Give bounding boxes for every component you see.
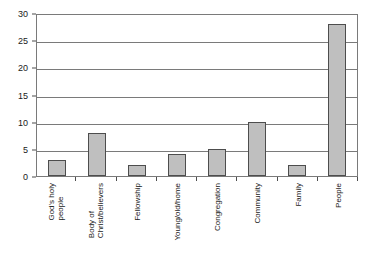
y-tick-label: 5 <box>23 145 28 154</box>
bar-slot <box>77 15 117 176</box>
x-axis-ticks <box>36 177 358 182</box>
bars-container <box>37 15 357 176</box>
bar-slot <box>37 15 77 176</box>
y-axis: 051015202530 <box>0 0 36 259</box>
bar[interactable] <box>48 160 66 176</box>
x-tick-mark <box>357 177 358 181</box>
bar[interactable] <box>128 165 146 176</box>
y-tick-label: 20 <box>18 64 28 73</box>
bar-chart: 051015202530 God's holy peopleBody of Ch… <box>0 0 373 259</box>
bar[interactable] <box>208 149 226 176</box>
bar[interactable] <box>328 24 346 176</box>
x-label-cell: People <box>318 183 358 259</box>
y-tick-label: 15 <box>18 91 28 100</box>
x-tick-cell <box>278 177 318 182</box>
x-axis-label: Fellowship <box>132 183 141 221</box>
x-tick-cell <box>117 177 157 182</box>
x-axis-label: Family <box>293 183 302 207</box>
plot-area <box>36 14 358 177</box>
bar[interactable] <box>88 133 106 176</box>
x-tick-cell <box>76 177 116 182</box>
x-label-cell: Young/old/home <box>157 183 197 259</box>
x-tick-cell <box>157 177 197 182</box>
x-axis-label: Congregation <box>213 183 222 231</box>
x-tick-cell <box>318 177 358 182</box>
x-label-cell: Community <box>237 183 277 259</box>
x-axis-labels: God's holy peopleBody of Christ/believer… <box>36 183 358 259</box>
x-label-cell: Body of Christ/believers <box>76 183 116 259</box>
bar-slot <box>197 15 237 176</box>
bar-slot <box>237 15 277 176</box>
x-axis-label: Body of Christ/believers <box>87 183 105 238</box>
x-label-cell: Family <box>278 183 318 259</box>
y-tick-label: 0 <box>23 173 28 182</box>
bar[interactable] <box>288 165 306 176</box>
bar-slot <box>317 15 357 176</box>
y-tick-label: 25 <box>18 37 28 46</box>
x-label-cell: Congregation <box>197 183 237 259</box>
x-axis-label: People <box>333 183 342 208</box>
x-label-cell: Fellowship <box>117 183 157 259</box>
bar-slot <box>117 15 157 176</box>
x-axis-label: Young/old/home <box>172 183 181 241</box>
bar[interactable] <box>248 122 266 176</box>
y-tick-label: 30 <box>18 10 28 19</box>
chart-title <box>0 0 373 7</box>
y-tick-label: 10 <box>18 118 28 127</box>
bar[interactable] <box>168 154 186 176</box>
x-tick-cell <box>237 177 277 182</box>
bar-slot <box>277 15 317 176</box>
x-label-cell: God's holy people <box>36 183 76 259</box>
x-axis-label: Community <box>253 183 262 223</box>
bar-slot <box>157 15 197 176</box>
x-tick-cell <box>197 177 237 182</box>
x-axis-label: God's holy people <box>47 183 65 221</box>
x-tick-cell <box>36 177 76 182</box>
